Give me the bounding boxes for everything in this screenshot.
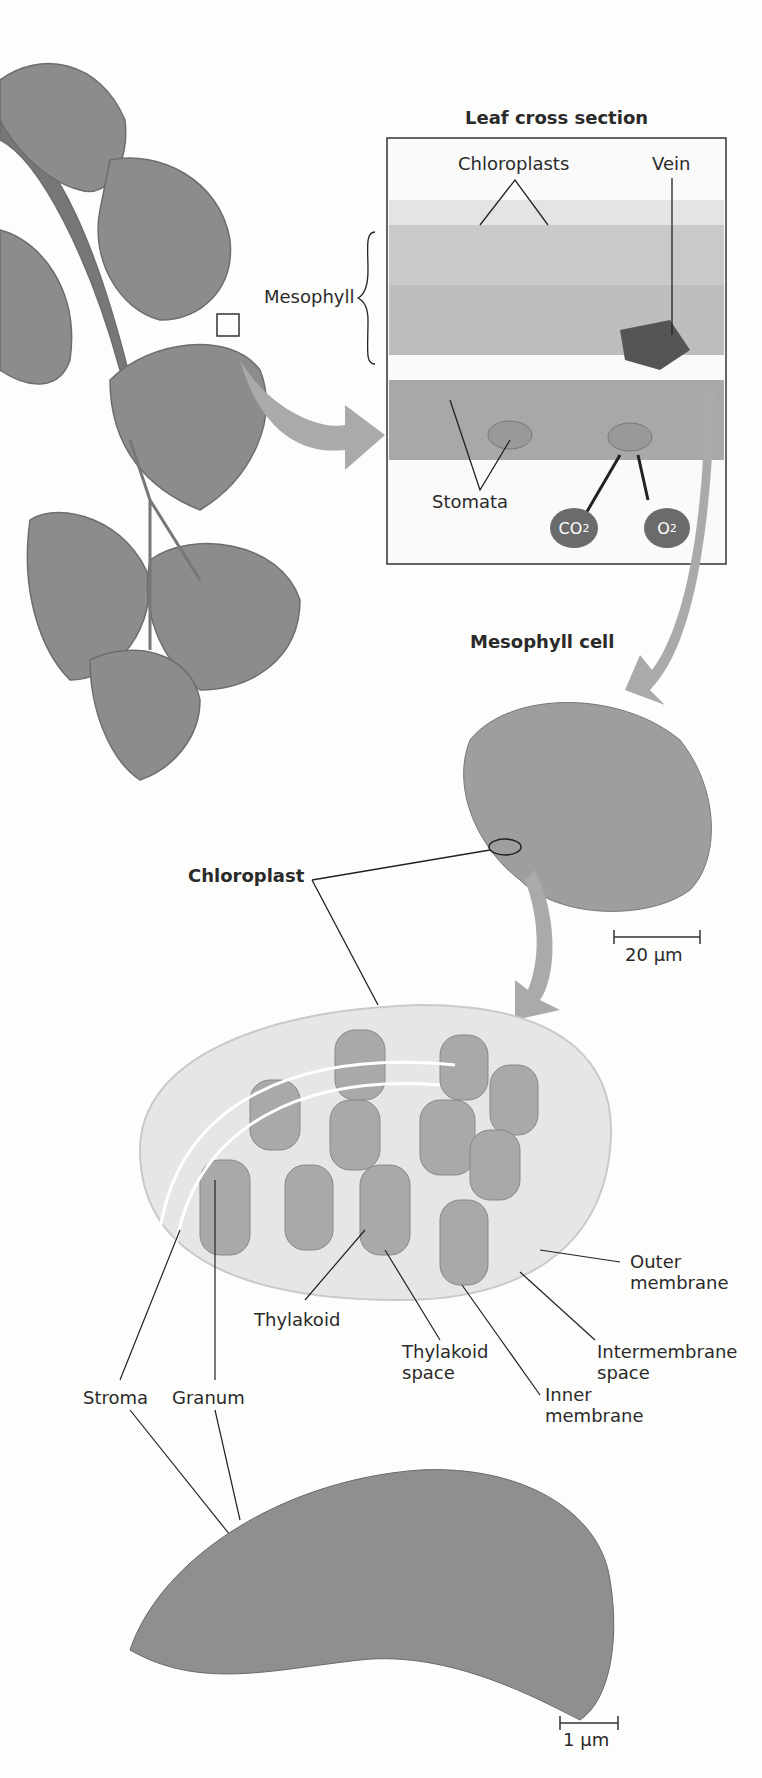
- label-outer-membrane: Outermembrane: [630, 1252, 728, 1293]
- label-thylakoid: Thylakoid: [254, 1310, 340, 1331]
- scale-bar-1um: 1 µm: [563, 1730, 609, 1751]
- label-inner-membrane: Innermembrane: [545, 1385, 643, 1426]
- scale-bar-20um: 20 µm: [625, 945, 683, 966]
- label-stomata: Stomata: [432, 492, 508, 513]
- label-mesophyll: Mesophyll: [264, 287, 354, 308]
- label-stroma: Stroma: [83, 1388, 148, 1409]
- title-chloroplast: Chloroplast: [188, 866, 304, 887]
- label-chloroplasts: Chloroplasts: [458, 154, 569, 175]
- label-granum: Granum: [172, 1388, 245, 1409]
- label-thylakoid-space: Thylakoidspace: [402, 1342, 488, 1383]
- co2-molecule: CO2: [550, 508, 598, 548]
- diagram-artwork: [0, 0, 762, 1778]
- leaf-branch-illustration: [0, 64, 300, 780]
- o2-molecule: O2: [644, 508, 690, 548]
- label-intermembrane-space: Intermembranespace: [597, 1342, 737, 1383]
- title-mesophyll-cell: Mesophyll cell: [470, 632, 614, 653]
- label-vein: Vein: [652, 154, 690, 175]
- title-leaf-cross-section: Leaf cross section: [465, 108, 648, 129]
